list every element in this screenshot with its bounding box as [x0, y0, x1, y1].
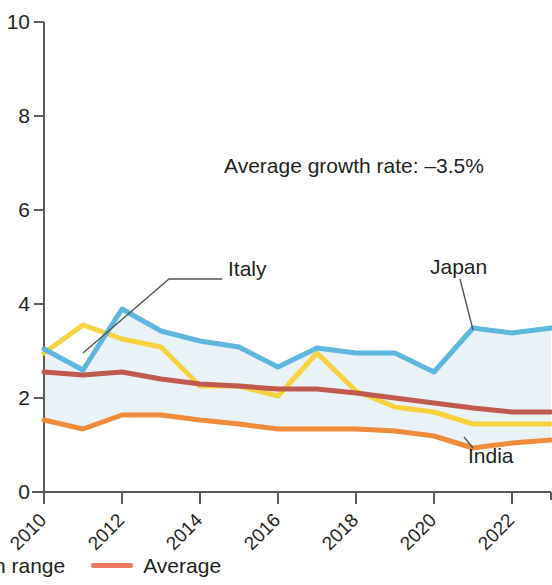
- chart-container: 10 8 6 4 2 0 2010 2012 2014 2016 2018 20…: [0, 0, 552, 585]
- series-label-japan: Japan: [430, 256, 487, 277]
- legend-label-range: n range: [0, 555, 65, 576]
- legend-label-average: Average: [143, 555, 221, 576]
- leader-line-japan: [460, 279, 473, 330]
- y-tick-label-4: 4: [0, 293, 30, 314]
- y-tick-label-6: 6: [0, 199, 30, 220]
- y-tick-label-8: 8: [0, 105, 30, 126]
- legend-item-range[interactable]: n range: [0, 555, 65, 576]
- chart-legend: n range Average: [0, 545, 552, 585]
- y-tick-label-0: 0: [0, 481, 30, 502]
- x-axis-ticks: [44, 492, 551, 504]
- average-growth-rate-annotation: Average growth rate: –3.5%: [224, 155, 484, 176]
- legend-item-average[interactable]: Average: [91, 555, 221, 576]
- series-label-italy: Italy: [228, 258, 267, 279]
- legend-swatch-average-line: [91, 563, 133, 568]
- chart-plot-area: [0, 0, 552, 585]
- series-label-india: India: [468, 445, 514, 466]
- y-tick-label-10: 10: [0, 11, 30, 32]
- y-tick-label-2: 2: [0, 387, 30, 408]
